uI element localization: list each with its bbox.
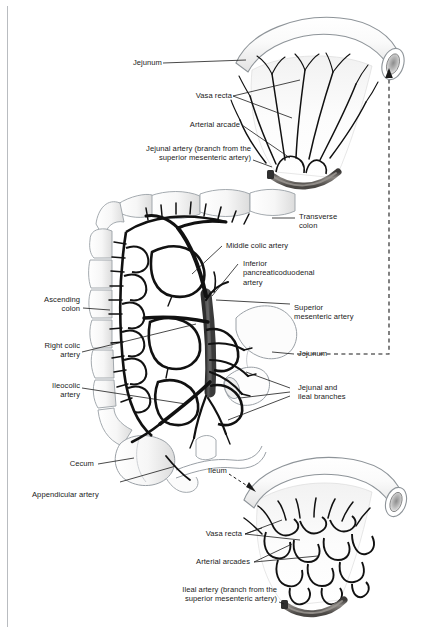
cecum (115, 435, 175, 485)
label-jejunal-ileal-line2: ileal branches (298, 392, 380, 401)
label-ileal-artery-line1: Ileal artery (branch from the (94, 585, 277, 594)
label-jejunum-top: Jejunum (100, 58, 162, 67)
label-transverse-colon-line2: colon (299, 221, 379, 230)
label-jejunal-artery-line1: Jejunal artery (branch from the (68, 144, 251, 153)
middle-colic-right-branch (178, 221, 226, 228)
label-vasa-recta-bottom: Vasa recta (178, 529, 242, 538)
label-superior-mesenteric-line1: Superior (294, 303, 394, 312)
label-ileal-artery-line2: superior mesenteric artery) (94, 594, 277, 603)
label-ascending-colon-line1: Ascending (14, 295, 80, 304)
label-ileocolic-line2: artery (14, 390, 80, 399)
inferior-pancreaticoduodenal-branch (214, 272, 216, 292)
anatomical-figure: Jejunum Vasa recta Arterial arcade Jejun… (0, 0, 421, 633)
ileum-pointer (229, 474, 256, 492)
label-right-colic-line2: artery (14, 350, 80, 359)
label-inferior-pd-line1: Inferior (243, 259, 353, 268)
appendix (166, 477, 198, 492)
label-transverse-colon-line1: Transverse (299, 212, 379, 221)
jejunal-mesentery (251, 56, 372, 178)
ileal-artery-cut-stump (281, 600, 288, 609)
label-jejunal-ileal-line1: Jejunal and (298, 383, 380, 392)
label-arterial-arcades-bottom: Arterial arcades (168, 557, 250, 566)
label-appendicular-artery: Appendicular artery (32, 490, 142, 499)
jejunal-artery-cut-stump (267, 170, 274, 179)
label-inferior-pd-line2: pancreaticoduodenal (243, 268, 353, 277)
label-ileum: Ileum (208, 466, 248, 475)
ascending-colon (89, 229, 132, 446)
label-jejunal-artery-line2: superior mesenteric artery) (68, 153, 251, 162)
label-inferior-pd-line3: artery (243, 278, 353, 287)
label-ascending-colon-line2: colon (14, 304, 80, 313)
label-ileocolic-line1: Ileocolic (14, 381, 80, 390)
jejunal-ileal-arcades (149, 246, 242, 425)
jejunum-loop-middle (236, 306, 297, 359)
label-right-colic-line1: Right colic (14, 341, 80, 350)
label-superior-mesenteric-line2: mesenteric artery (294, 312, 394, 321)
label-vasa-recta-top: Vasa recta (168, 91, 232, 100)
label-middle-colic-artery: Middle colic artery (226, 241, 342, 250)
label-cecum: Cecum (42, 459, 94, 468)
colon-sma-panel (82, 189, 297, 492)
label-arterial-arcade-top: Arterial arcade (160, 120, 240, 129)
ileum-cut-stub (196, 436, 216, 460)
label-jejunum-middle: Jejunum (298, 349, 354, 358)
